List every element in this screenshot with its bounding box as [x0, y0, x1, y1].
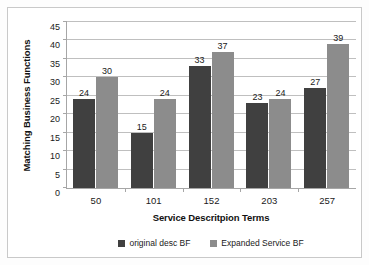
bar-value-label: 30: [102, 66, 112, 76]
x-tick-label: 203: [261, 195, 277, 206]
x-axis-title: Service Descritpion Terms: [66, 212, 356, 223]
legend-item[interactable]: original desc BF: [118, 238, 190, 248]
bar-value-label: 33: [195, 55, 205, 65]
bar-value-label: 37: [218, 41, 228, 51]
bar-chart-figure: Matching Business Functions 051015202530…: [0, 0, 369, 265]
bar-value-label: 39: [333, 33, 343, 43]
x-tick-label: 152: [204, 195, 220, 206]
bar: 24: [73, 99, 95, 188]
legend-swatch-icon: [118, 240, 125, 247]
x-tick-label: 101: [146, 195, 162, 206]
bar: 30: [96, 77, 118, 188]
bar: 27: [304, 88, 326, 188]
bar-value-label: 24: [275, 88, 285, 98]
x-tick-label: 50: [91, 195, 102, 206]
x-tick-mark: [240, 188, 241, 192]
y-axis-title: Matching Business Functions: [21, 26, 32, 186]
bar: 24: [269, 99, 291, 188]
plot-area: 051015202530354045 24301524333723242739 …: [66, 22, 356, 189]
bar: 39: [327, 44, 349, 188]
bar: 33: [189, 66, 211, 188]
x-tick-label: 257: [319, 195, 335, 206]
bar: 37: [212, 52, 234, 188]
bar-group: 2739: [298, 22, 356, 188]
legend-label: original desc BF: [129, 238, 190, 248]
bar-value-label: 24: [160, 88, 170, 98]
bar-group: 1524: [125, 22, 183, 188]
chart-frame: Matching Business Functions 051015202530…: [7, 7, 362, 258]
bar-value-label: 15: [137, 122, 147, 132]
legend-swatch-icon: [210, 240, 217, 247]
x-tick-mark: [125, 188, 126, 192]
bar-group: 3337: [183, 22, 241, 188]
legend-item[interactable]: Expanded Service BF: [210, 238, 303, 248]
legend-label: Expanded Service BF: [221, 238, 303, 248]
x-tick-mark: [298, 188, 299, 192]
bar: 15: [131, 133, 153, 188]
bar-group: 2430: [67, 22, 125, 188]
bar-value-label: 24: [79, 88, 89, 98]
bar-value-label: 23: [252, 92, 262, 102]
bar: 23: [246, 103, 268, 188]
bars-layer: 24301524333723242739: [67, 22, 356, 188]
bar: 24: [154, 99, 176, 188]
chart-legend: original desc BFExpanded Service BF: [66, 238, 356, 248]
x-tick-mark: [183, 188, 184, 192]
bar-value-label: 27: [310, 77, 320, 87]
bar-group: 2324: [240, 22, 298, 188]
